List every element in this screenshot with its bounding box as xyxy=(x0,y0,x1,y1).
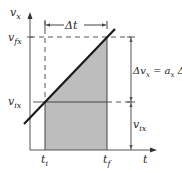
delta-v-equation: Δvx = ax Δt xyxy=(132,65,182,79)
v-initial-bracket-label: vix xyxy=(133,118,147,133)
delta-v-arrowhead-top-icon xyxy=(129,38,132,42)
x-axis-arrowhead-icon xyxy=(150,148,157,153)
delta-t-label: Δt xyxy=(64,19,78,32)
x-axis-label: t xyxy=(143,153,148,166)
delta-t-arrowhead-left-icon xyxy=(46,23,50,26)
v-initial-label: vix xyxy=(8,95,22,110)
velocity-time-diagram: vx vfx vix ti tf t Δt Δvx = ax Δt vix xyxy=(0,0,182,173)
v-ix-arrowhead-mid-icon xyxy=(129,103,132,107)
t-final-label: tf xyxy=(103,153,112,168)
delta-v-arrowhead-mid-icon xyxy=(129,97,132,101)
y-axis-label: vx xyxy=(10,6,21,21)
t-initial-label: ti xyxy=(41,153,48,168)
v-ix-arrowhead-bottom-icon xyxy=(129,145,132,149)
delta-t-arrowhead-right-icon xyxy=(102,23,106,26)
y-axis-arrowhead-icon xyxy=(28,12,33,19)
v-final-label: vfx xyxy=(8,31,22,46)
